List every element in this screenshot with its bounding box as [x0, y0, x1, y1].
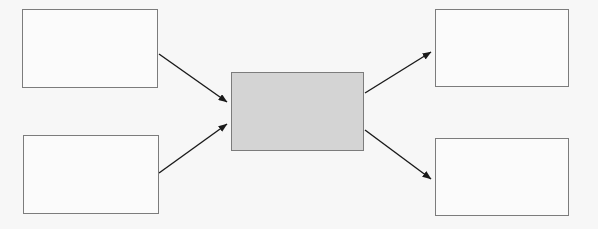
node-input-bottom[interactable] [23, 135, 159, 214]
node-output-top[interactable] [435, 9, 569, 87]
diagram-canvas [0, 0, 598, 229]
edge-process-to-output-bottom [365, 130, 431, 179]
edge-input-top-to-process [159, 54, 227, 102]
edge-process-to-output-top [365, 52, 431, 93]
edge-input-bottom-to-process [159, 124, 227, 173]
node-process-center[interactable] [231, 72, 364, 151]
node-input-top[interactable] [22, 9, 158, 88]
node-output-bottom[interactable] [435, 138, 569, 216]
